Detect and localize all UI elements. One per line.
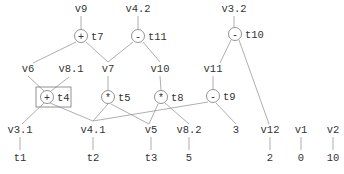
op-node-t4: +t4 — [41, 91, 70, 105]
var-label: v10 — [151, 63, 170, 75]
edge — [239, 40, 269, 124]
dag-svg: +t7-t11-t10+t4*t5*t8-t9 v9v4.2v3.2v6v8.1… — [0, 0, 344, 174]
edge — [220, 40, 231, 63]
op-symbol: + — [44, 93, 50, 104]
var-label: v1 — [295, 124, 308, 136]
var-label: 3 — [233, 124, 239, 136]
edge — [111, 104, 149, 124]
edge — [51, 77, 69, 91]
edge — [93, 102, 208, 121]
edge — [149, 104, 158, 124]
var-label: v5 — [145, 124, 158, 136]
op-node-t11: -t11 — [132, 30, 167, 44]
leaf-label: 5 — [186, 152, 192, 164]
var-label: v4.2 — [125, 3, 150, 15]
var-labels: v9v4.2v3.2v6v8.1v7v10v11v3.1v4.1v5v8.23v… — [7, 3, 339, 136]
var-label: v4.1 — [80, 124, 105, 136]
edge — [216, 103, 236, 124]
op-symbol: + — [78, 32, 84, 43]
edge — [22, 103, 44, 124]
op-label: t7 — [91, 31, 104, 43]
var-label: v12 — [261, 124, 280, 136]
op-symbol: - — [232, 30, 238, 41]
leaf-label: 0 — [298, 152, 304, 164]
leaf-label: t3 — [145, 152, 158, 164]
edge — [160, 76, 161, 90]
edge — [93, 104, 108, 121]
op-label: t5 — [118, 92, 131, 104]
edge — [108, 42, 133, 62]
op-label: t4 — [57, 92, 70, 104]
leaf-label: t2 — [87, 152, 100, 164]
edge — [165, 103, 189, 124]
op-label: t10 — [245, 29, 264, 41]
op-symbol: * — [158, 93, 164, 104]
edge — [86, 42, 108, 62]
var-label: v3.2 — [221, 3, 246, 15]
op-node-t5: *t5 — [102, 91, 131, 105]
op-label: t9 — [223, 91, 236, 103]
var-label: v2 — [327, 124, 340, 136]
op-symbol: - — [210, 92, 216, 103]
op-node-t10: -t10 — [229, 28, 264, 42]
edge — [50, 103, 93, 121]
leaf-label: t1 — [14, 152, 27, 164]
op-symbol: - — [135, 32, 141, 43]
op-label: t11 — [148, 31, 167, 43]
leaf-label: 2 — [267, 152, 273, 164]
var-label: v9 — [75, 3, 88, 15]
leaf-labels: t1t2t352010 — [14, 152, 340, 164]
var-label: v11 — [204, 63, 223, 75]
edge — [143, 42, 160, 62]
leaf-label: 10 — [327, 152, 340, 164]
var-label: v8.2 — [176, 124, 201, 136]
var-label: v7 — [102, 63, 115, 75]
var-label: v3.1 — [7, 124, 32, 136]
op-node-t9: -t9 — [207, 90, 236, 104]
op-node-t8: *t8 — [155, 91, 184, 105]
dag-diagram: +t7-t11-t10+t4*t5*t8-t9 v9v4.2v3.2v6v8.1… — [0, 0, 344, 174]
op-symbol: * — [105, 93, 111, 104]
op-node-t7: +t7 — [75, 30, 104, 44]
op-label: t8 — [171, 92, 184, 104]
edge — [33, 42, 76, 63]
var-label: v6 — [22, 63, 35, 75]
var-label: v8.1 — [58, 63, 83, 75]
